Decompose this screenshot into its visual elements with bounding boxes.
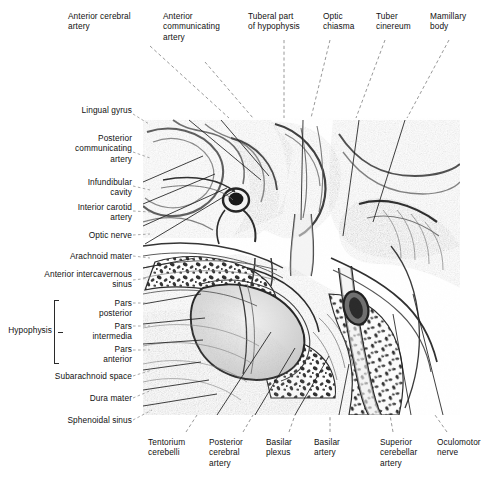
label-optic-nerve: Optic nerve xyxy=(12,230,132,240)
leader-lingual-gyrus xyxy=(133,114,149,124)
leader-anterior-intercavernous-sinus xyxy=(133,278,150,280)
label-anterior-intercavernous-sinus: Anterior intercavernous sinus xyxy=(2,269,132,290)
leader-anterior-cerebral-artery xyxy=(150,46,229,118)
label-basilar-plexus: Basilar plexus xyxy=(266,437,312,458)
label-tuberal-part-of-hypophysis: Tuberal part of hypophysis xyxy=(248,11,320,32)
leader-arachnoid-mater xyxy=(133,256,150,258)
label-pars-posterior: Pars posterior xyxy=(60,298,132,319)
leader-dura-mater xyxy=(133,390,152,398)
label-superior-cerebellar-artery: Superior cerebellar artery xyxy=(380,437,436,468)
label-anterior-communicating-artery: Anterior communicating artery xyxy=(163,11,241,42)
leader-posterior-communicating-artery xyxy=(133,152,150,158)
hypophysis-bracket xyxy=(54,300,59,364)
leader-anterior-communicating-artery xyxy=(205,62,253,118)
label-tentorium-cerebelli: Tentorium cerebelli xyxy=(148,437,204,458)
label-posterior-cerebral-artery: Posterior cerebral artery xyxy=(209,437,263,468)
label-anterior-cerebral-artery: Anterior cerebral artery xyxy=(68,11,158,32)
leader-optic-nerve xyxy=(133,234,150,235)
label-mamillary-body: Mamillary body xyxy=(430,11,492,32)
label-infundibular-cavity: Infundibular cavity xyxy=(12,177,132,198)
leader-mamillary-body xyxy=(407,40,449,118)
leader-subarachnoid-space xyxy=(133,370,152,376)
leader-sphenoidal-sinus xyxy=(133,410,152,420)
label-pars-intermedia: Pars intermedia xyxy=(60,321,132,342)
label-lingual-gyrus: Lingual gyrus xyxy=(12,105,132,115)
label-hypophysis: Hypophysis xyxy=(0,325,52,335)
leader-superior-cerebellar-artery xyxy=(390,415,393,432)
leader-interior-carotid-artery xyxy=(133,211,150,212)
label-tuber-cinereum: Tuber cinereum xyxy=(376,11,434,32)
figure-canvas: Anterior cerebral artery Anterior commun… xyxy=(0,0,498,487)
label-arachnoid-mater: Arachnoid mater xyxy=(6,251,132,261)
leader-posterior-cerebral-artery xyxy=(243,415,253,432)
leader-oculomotor-nerve xyxy=(435,415,447,432)
leader-lines xyxy=(0,0,498,487)
leader-infundibular-cavity xyxy=(133,186,150,190)
label-optic-chiasma: Optic chiasma xyxy=(323,11,381,32)
label-oculomotor-nerve: Oculomotor nerve xyxy=(437,437,495,458)
leader-tuber-cinereum xyxy=(356,40,385,118)
label-interior-carotid-artery: Interior carotid artery xyxy=(12,202,132,223)
label-subarachnoid-space: Subarachnoid space xyxy=(12,371,132,381)
label-basilar-artery: Basilar artery xyxy=(314,437,360,458)
leader-basilar-plexus xyxy=(289,415,295,432)
label-pars-anterior: Pars anterior xyxy=(60,344,132,365)
leader-tentorium-cerebelli xyxy=(186,415,197,432)
label-posterior-communicating-artery: Posterior communicating artery xyxy=(12,133,132,164)
label-dura-mater: Dura mater xyxy=(12,393,132,403)
leader-optic-chiasma xyxy=(311,40,330,118)
label-sphenoidal-sinus: Sphenoidal sinus xyxy=(12,415,132,425)
